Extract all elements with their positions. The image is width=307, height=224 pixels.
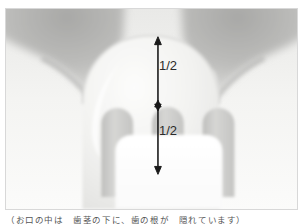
radiograph-svg — [6, 9, 297, 209]
restoration — [115, 135, 222, 209]
radiograph-image — [6, 9, 297, 209]
upper-half-label: 1/2 — [159, 59, 177, 72]
lower-half-label: 1/2 — [159, 124, 177, 137]
figure-frame — [5, 8, 298, 210]
figure-caption: （お口の中は 歯茎の下に、歯の根が 隠れています） — [6, 215, 301, 224]
